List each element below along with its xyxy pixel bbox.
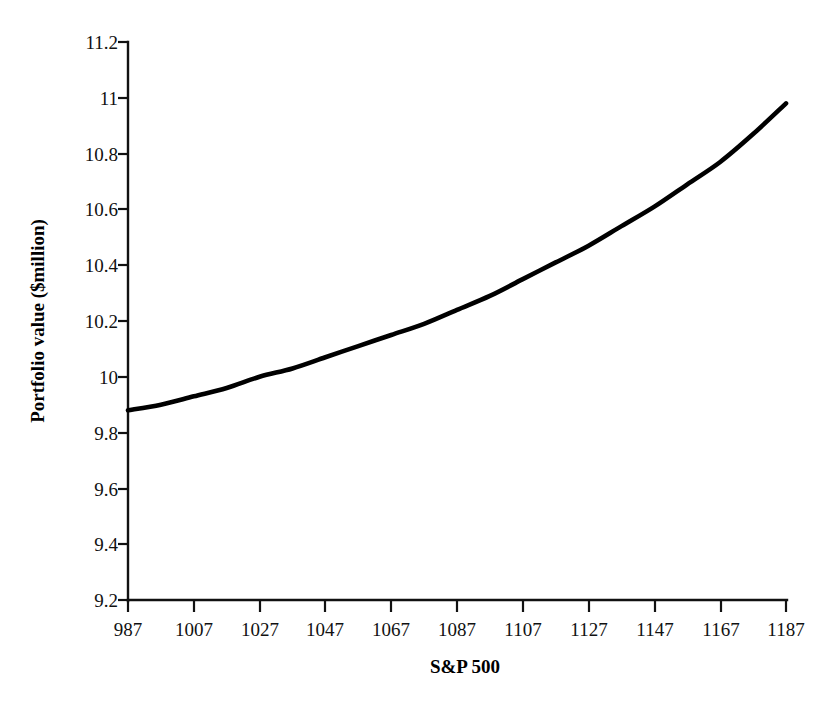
y-tick-label: 9.4 — [94, 534, 118, 555]
portfolio-value-curve — [128, 103, 786, 410]
y-axis — [118, 42, 128, 601]
y-tick-label: 9.2 — [94, 590, 118, 611]
y-tick-label: 10.4 — [85, 255, 119, 276]
x-tick-label: 1087 — [438, 619, 476, 640]
y-tick-label: 10.8 — [85, 144, 118, 165]
chart-figure: Portfolio value ($million) 11.2 11 10.8 … — [0, 0, 833, 702]
y-tick-label: 11 — [100, 88, 118, 109]
y-tick-label: 10.2 — [85, 311, 118, 332]
x-tick-label: 1107 — [504, 619, 541, 640]
x-tick-label: 1027 — [241, 619, 279, 640]
x-tick-label: 987 — [114, 619, 143, 640]
x-tick-label: 1067 — [372, 619, 410, 640]
x-tick-label: 1147 — [636, 619, 673, 640]
y-tick-label: 11.2 — [85, 32, 118, 53]
y-tick-label: 9.6 — [94, 479, 118, 500]
y-axis-title: Portfolio value ($million) — [27, 219, 49, 423]
x-tick-label: 1007 — [175, 619, 213, 640]
y-tick-labels: 11.2 11 10.8 10.6 10.4 10.2 10 9.8 9.6 9… — [85, 32, 119, 611]
x-tick-label: 1127 — [570, 619, 607, 640]
x-tick-label: 1167 — [702, 619, 739, 640]
x-tick-label: 1047 — [306, 619, 344, 640]
y-tick-label: 10 — [99, 367, 118, 388]
y-tick-label: 10.6 — [85, 199, 118, 220]
y-tick-label: 9.8 — [94, 423, 118, 444]
x-axis — [128, 600, 787, 612]
x-tick-label: 1187 — [767, 619, 804, 640]
portfolio-value-line-chart: Portfolio value ($million) 11.2 11 10.8 … — [0, 0, 833, 702]
x-tick-labels: 987 1007 1027 1047 1067 1087 1107 1127 1… — [114, 619, 805, 640]
x-axis-title: S&P 500 — [430, 656, 500, 677]
